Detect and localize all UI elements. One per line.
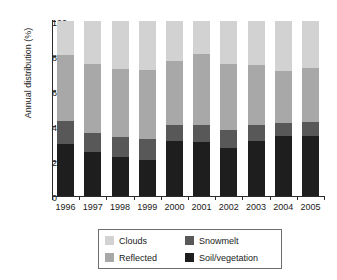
- segment-clouds: [220, 21, 237, 64]
- bar-1996[interactable]: [57, 21, 74, 196]
- bar-2000[interactable]: [166, 21, 183, 196]
- bar-2004[interactable]: [275, 21, 292, 196]
- segment-reflected: [84, 64, 101, 133]
- legend-label: Reflected: [119, 253, 157, 263]
- segment-clouds: [275, 21, 292, 71]
- segment-soil-vegetation: [248, 141, 265, 196]
- legend-swatch-icon: [105, 253, 114, 262]
- segment-reflected: [139, 70, 156, 139]
- segment-soil-vegetation: [275, 136, 292, 196]
- segment-clouds: [248, 21, 265, 65]
- x-tick-mark: [242, 196, 243, 200]
- segment-reflected: [193, 54, 210, 125]
- segment-clouds: [57, 21, 74, 55]
- legend-item-reflected[interactable]: Reflected: [105, 253, 185, 263]
- segment-snowmelt: [302, 122, 319, 136]
- bar-1998[interactable]: [112, 21, 129, 196]
- plot-area: [52, 21, 324, 196]
- legend-swatch-icon: [185, 236, 194, 245]
- bar-2003[interactable]: [248, 21, 265, 196]
- segment-soil-vegetation: [193, 142, 210, 196]
- segment-snowmelt: [84, 133, 101, 152]
- segment-clouds: [166, 21, 183, 61]
- segment-reflected: [302, 68, 319, 121]
- legend-item-clouds[interactable]: Clouds: [105, 236, 185, 246]
- segment-soil-vegetation: [139, 160, 156, 196]
- segment-clouds: [84, 21, 101, 64]
- segment-clouds: [139, 21, 156, 70]
- segment-snowmelt: [193, 125, 210, 142]
- x-tick-mark: [270, 196, 271, 200]
- segment-soil-vegetation: [220, 148, 237, 196]
- legend-label: Snowmelt: [199, 236, 239, 246]
- legend-label: Clouds: [119, 236, 147, 246]
- x-tick-mark: [106, 196, 107, 200]
- bar-2002[interactable]: [220, 21, 237, 196]
- legend-swatch-icon: [185, 253, 194, 262]
- segment-snowmelt: [112, 137, 129, 157]
- segment-clouds: [193, 21, 210, 54]
- bar-2005[interactable]: [302, 21, 319, 196]
- x-tick-mark: [134, 196, 135, 200]
- segment-soil-vegetation: [57, 144, 74, 196]
- legend-label: Soil/vegetation: [199, 253, 258, 263]
- legend-item-snowmelt[interactable]: Snowmelt: [185, 236, 289, 246]
- x-tick-mark: [324, 196, 325, 200]
- segment-reflected: [220, 64, 237, 131]
- x-tick-mark: [52, 196, 53, 200]
- segment-reflected: [57, 55, 74, 121]
- x-tick-mark: [161, 196, 162, 200]
- segment-soil-vegetation: [84, 152, 101, 196]
- segment-clouds: [302, 21, 319, 68]
- segment-reflected: [166, 61, 183, 125]
- segment-snowmelt: [248, 125, 265, 141]
- segment-reflected: [112, 69, 129, 136]
- chart-figure: Annual distribution (%) 100806040200 199…: [0, 0, 337, 280]
- x-tick-mark: [79, 196, 80, 200]
- x-tick-mark: [215, 196, 216, 200]
- segment-snowmelt: [139, 139, 156, 160]
- segment-reflected: [275, 71, 292, 123]
- segment-soil-vegetation: [166, 141, 183, 196]
- segment-soil-vegetation: [302, 136, 319, 196]
- segment-snowmelt: [166, 125, 183, 141]
- segment-snowmelt: [275, 123, 292, 136]
- bar-1999[interactable]: [139, 21, 156, 196]
- legend: CloudsSnowmeltReflectedSoil/vegetation: [98, 229, 282, 269]
- segment-reflected: [248, 65, 265, 125]
- legend-swatch-icon: [105, 236, 114, 245]
- segment-clouds: [112, 21, 129, 69]
- bar-2001[interactable]: [193, 21, 210, 196]
- x-tick-mark: [297, 196, 298, 200]
- segment-snowmelt: [57, 121, 74, 145]
- segment-snowmelt: [220, 130, 237, 148]
- x-tick-mark: [188, 196, 189, 200]
- legend-item-soil-vegetation[interactable]: Soil/vegetation: [185, 253, 289, 263]
- bar-1997[interactable]: [84, 21, 101, 196]
- x-tick-label-2005: 2005: [293, 202, 327, 212]
- y-axis-title: Annual distribution (%): [23, 0, 33, 153]
- segment-soil-vegetation: [112, 157, 129, 196]
